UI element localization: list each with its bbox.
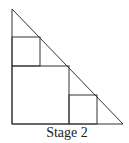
stage-caption: Stage 2 <box>0 124 129 142</box>
upper-small-square <box>12 37 40 66</box>
stage-diagram <box>0 0 129 143</box>
large-square <box>12 66 69 124</box>
lower-small-square <box>69 95 97 124</box>
